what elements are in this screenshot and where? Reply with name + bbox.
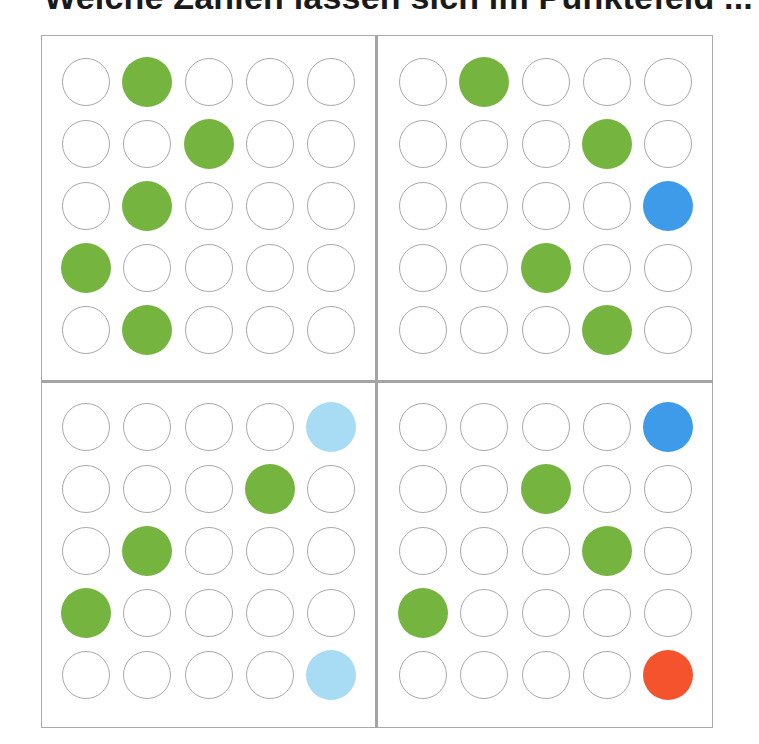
green-dot <box>521 464 571 514</box>
empty-dot <box>644 244 692 292</box>
empty-dot <box>307 244 355 292</box>
red-dot <box>643 650 693 700</box>
empty-dot <box>185 651 233 699</box>
empty-dot <box>307 120 355 168</box>
green-dot <box>122 57 172 107</box>
green-dot <box>582 305 632 355</box>
empty-dot <box>399 306 447 354</box>
green-dot <box>184 119 234 169</box>
page-title: Welche Zahlen lassen sich im Punktefeld … <box>44 0 753 17</box>
empty-dot <box>307 589 355 637</box>
empty-dot <box>62 403 110 451</box>
empty-dot <box>185 403 233 451</box>
empty-dot <box>246 651 294 699</box>
empty-dot <box>246 58 294 106</box>
empty-dot <box>62 120 110 168</box>
empty-dot <box>460 651 508 699</box>
empty-dot <box>307 306 355 354</box>
empty-dot <box>246 306 294 354</box>
empty-dot <box>460 120 508 168</box>
empty-dot <box>644 306 692 354</box>
empty-dot <box>246 182 294 230</box>
green-dot <box>61 243 111 293</box>
empty-dot <box>583 403 631 451</box>
empty-dot <box>185 589 233 637</box>
green-dot <box>398 588 448 638</box>
empty-dot <box>522 651 570 699</box>
empty-dot <box>185 244 233 292</box>
empty-dot <box>185 527 233 575</box>
empty-dot <box>123 465 171 513</box>
empty-dot <box>185 306 233 354</box>
empty-dot <box>62 182 110 230</box>
empty-dot <box>185 58 233 106</box>
empty-dot <box>399 120 447 168</box>
empty-dot <box>522 527 570 575</box>
empty-dot <box>399 403 447 451</box>
empty-dot <box>460 306 508 354</box>
empty-dot <box>62 58 110 106</box>
empty-dot <box>522 589 570 637</box>
empty-dot <box>644 527 692 575</box>
empty-dot <box>522 120 570 168</box>
green-dot <box>582 526 632 576</box>
green-dot <box>582 119 632 169</box>
empty-dot <box>399 527 447 575</box>
empty-dot <box>123 244 171 292</box>
empty-dot <box>123 651 171 699</box>
empty-dot <box>522 58 570 106</box>
empty-dot <box>460 465 508 513</box>
empty-dot <box>522 403 570 451</box>
light-blue-dot <box>306 650 356 700</box>
blue-dot <box>643 402 693 452</box>
empty-dot <box>522 306 570 354</box>
empty-dot <box>460 182 508 230</box>
green-dot <box>122 526 172 576</box>
green-dot <box>122 305 172 355</box>
empty-dot <box>62 465 110 513</box>
horizontal-divider <box>41 380 713 383</box>
empty-dot <box>644 58 692 106</box>
blue-dot <box>643 181 693 231</box>
empty-dot <box>583 651 631 699</box>
empty-dot <box>62 306 110 354</box>
empty-dot <box>246 403 294 451</box>
light-blue-dot <box>306 402 356 452</box>
empty-dot <box>399 465 447 513</box>
green-dot <box>122 181 172 231</box>
empty-dot <box>460 403 508 451</box>
green-dot <box>459 57 509 107</box>
empty-dot <box>307 58 355 106</box>
empty-dot <box>399 244 447 292</box>
empty-dot <box>644 589 692 637</box>
empty-dot <box>62 527 110 575</box>
empty-dot <box>399 182 447 230</box>
empty-dot <box>307 465 355 513</box>
empty-dot <box>185 465 233 513</box>
empty-dot <box>123 120 171 168</box>
empty-dot <box>62 651 110 699</box>
empty-dot <box>123 403 171 451</box>
empty-dot <box>460 527 508 575</box>
empty-dot <box>246 527 294 575</box>
empty-dot <box>307 182 355 230</box>
empty-dot <box>307 527 355 575</box>
empty-dot <box>644 465 692 513</box>
empty-dot <box>583 244 631 292</box>
empty-dot <box>644 120 692 168</box>
empty-dot <box>522 182 570 230</box>
empty-dot <box>583 465 631 513</box>
empty-dot <box>185 182 233 230</box>
empty-dot <box>246 244 294 292</box>
empty-dot <box>123 589 171 637</box>
green-dot <box>245 464 295 514</box>
empty-dot <box>460 244 508 292</box>
empty-dot <box>460 589 508 637</box>
empty-dot <box>399 651 447 699</box>
empty-dot <box>246 120 294 168</box>
empty-dot <box>583 58 631 106</box>
green-dot <box>61 588 111 638</box>
empty-dot <box>399 58 447 106</box>
green-dot <box>521 243 571 293</box>
empty-dot <box>583 182 631 230</box>
